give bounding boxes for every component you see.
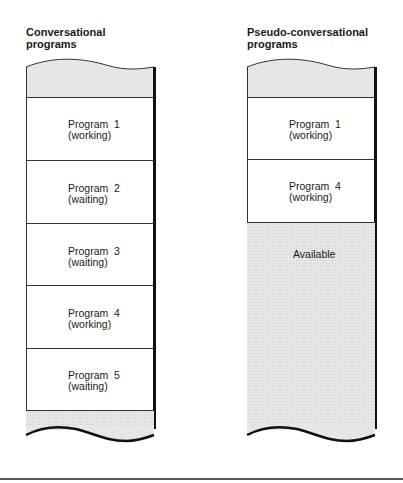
available-region: Available	[247, 222, 375, 430]
program-1-status: (working)	[68, 130, 120, 141]
program-4-block: Program 4(working)	[247, 159, 375, 222]
program-1-block: Program 1(working)	[26, 97, 154, 160]
program-2-block: Program 2(waiting)	[26, 160, 154, 223]
conversational-memory-column: Program 1(working) Program 2(waiting) Pr…	[26, 0, 156, 483]
program-5-block: Program 5(waiting)	[26, 348, 154, 410]
pseudo-conversational-memory-column: Program 1(working) Program 4(working) Av…	[247, 0, 377, 483]
program-4-status: (working)	[68, 319, 120, 330]
program-1-block: Program 1(working)	[247, 97, 375, 159]
program-3-status: (waiting)	[68, 257, 120, 268]
program-4-status: (working)	[289, 192, 341, 203]
available-label: Available	[293, 249, 335, 260]
program-2-status: (waiting)	[68, 194, 120, 205]
bottom-wave-shape	[247, 425, 377, 465]
program-3-block: Program 3(waiting)	[26, 223, 154, 285]
program-5-status: (waiting)	[68, 381, 120, 392]
bottom-divider	[0, 478, 403, 480]
bottom-wave-shape	[26, 425, 156, 465]
program-4-block: Program 4(working)	[26, 285, 154, 348]
program-1-status: (working)	[289, 130, 341, 141]
